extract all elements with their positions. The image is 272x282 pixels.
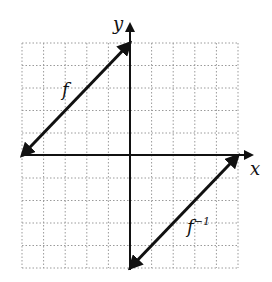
- f-line: [22, 43, 130, 156]
- x-axis-label: x: [250, 158, 260, 179]
- y-axis-label: y: [112, 13, 124, 34]
- graph: x y f f−1: [0, 0, 272, 282]
- f-inverse-label: f−1: [185, 215, 210, 237]
- f-label: f: [60, 79, 72, 100]
- f-inverse-superscript: −1: [194, 215, 210, 228]
- axes: [22, 24, 252, 270]
- f-inverse-line: [130, 156, 238, 269]
